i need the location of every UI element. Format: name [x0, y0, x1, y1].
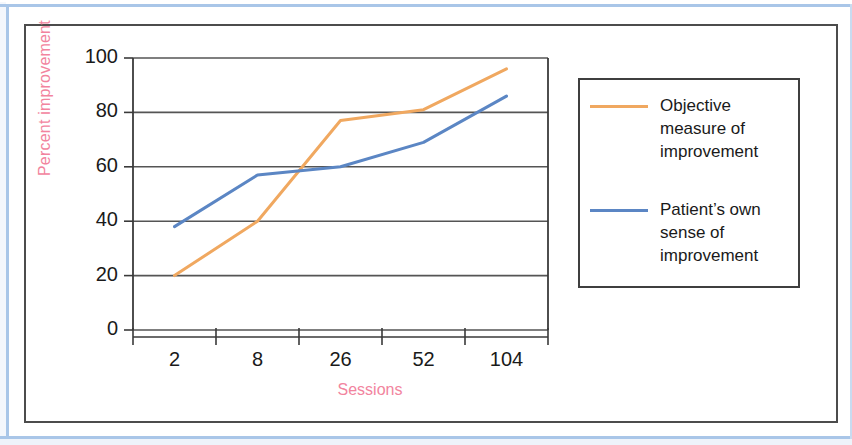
y-tick-mark-group: [124, 58, 133, 330]
scanned-figure-page: Percent improvement Sessions 02040608010…: [0, 0, 852, 445]
legend-label-line: improvement: [660, 140, 792, 163]
legend-label-line: Patient’s own: [660, 198, 792, 221]
legend-item-patient: Patient’s ownsense ofimprovement: [590, 198, 792, 267]
legend-swatch-patient: [590, 209, 648, 212]
legend-label-patient: Patient’s ownsense ofimprovement: [660, 198, 792, 267]
axis-group: [133, 58, 548, 337]
legend-label-line: improvement: [660, 244, 792, 267]
data-series-group: [175, 69, 507, 276]
legend-item-objective: Objectivemeasure ofimprovement: [590, 94, 792, 163]
legend-label-objective: Objectivemeasure ofimprovement: [660, 94, 792, 163]
legend-label-line: Objective: [660, 94, 792, 117]
gridline-group: [133, 58, 548, 330]
legend-label-line: sense of: [660, 221, 792, 244]
legend-swatch-objective: [590, 105, 648, 108]
legend-label-line: measure of: [660, 117, 792, 140]
chart-legend: Objectivemeasure ofimprovement Patient’s…: [578, 78, 800, 288]
